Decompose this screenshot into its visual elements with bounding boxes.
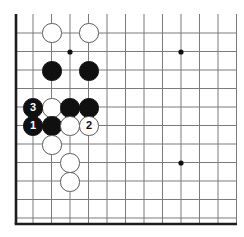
goban-grid [0, 0, 244, 237]
diagram-background [0, 0, 244, 237]
star-point-upper-right-icon [178, 49, 183, 54]
star-point-upper-left-icon [67, 49, 72, 54]
star-point-lower-right-icon [178, 160, 183, 165]
go-board-diagram: 312 [0, 0, 244, 237]
